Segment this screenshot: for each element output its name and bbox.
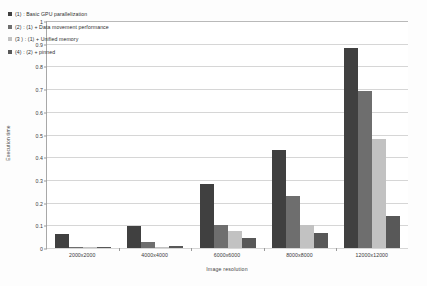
bar-series-3[interactable] — [228, 231, 242, 248]
y-tick-mark — [44, 249, 47, 250]
x-axis-title: Image resolution — [46, 266, 408, 272]
legend-item-1[interactable]: (1) : Basic GPU parallelization — [8, 11, 109, 17]
bar-series-2[interactable] — [358, 91, 372, 248]
bar-series-3[interactable] — [300, 225, 314, 248]
bar-series-1[interactable] — [344, 48, 358, 248]
y-tick-label: 0 — [40, 246, 43, 252]
gridline: 0 — [47, 248, 408, 249]
legend-item-2[interactable]: (2) : (1) + Data movement performance — [8, 24, 109, 30]
y-tick-label: 0.4 — [35, 155, 43, 161]
bar-series-1[interactable] — [55, 234, 69, 248]
y-tick-label: 0.1 — [35, 223, 43, 229]
bar-group — [119, 21, 191, 248]
legend-item-4[interactable]: (4) : (2) + pinned — [8, 49, 109, 55]
bar-group — [191, 21, 263, 248]
legend-swatch-icon — [8, 50, 12, 54]
y-tick-label: 0.8 — [35, 64, 43, 70]
bar-series-4[interactable] — [97, 247, 111, 248]
bar-series-1[interactable] — [200, 184, 214, 248]
x-tick-label: 12000x12000 — [336, 252, 408, 258]
bar-groups — [47, 21, 408, 248]
y-tick-label: 0.3 — [35, 178, 43, 184]
y-tick-label: 0.6 — [35, 110, 43, 116]
x-axis-tick-labels: 2000x20004000x40006000x60008000x80001200… — [46, 252, 408, 258]
x-tick-mark — [336, 248, 337, 251]
legend-label: (2) : (1) + Data movement performance — [15, 24, 109, 30]
bar-group — [336, 21, 408, 248]
bar-series-4[interactable] — [242, 238, 256, 248]
x-tick-label: 2000x2000 — [46, 252, 118, 258]
y-tick-label: 0.2 — [35, 201, 43, 207]
x-tick-mark — [119, 248, 120, 251]
bar-series-3[interactable] — [155, 247, 169, 248]
x-tick-label: 8000x8000 — [263, 252, 335, 258]
legend-swatch-icon — [8, 12, 12, 16]
bar-series-2[interactable] — [69, 247, 83, 248]
legend-label: (1) : Basic GPU parallelization — [15, 11, 87, 17]
bar-chart: Execution time 00.10.20.30.40.50.60.70.8… — [0, 0, 427, 286]
legend-swatch-icon — [8, 37, 12, 41]
bar-series-4[interactable] — [314, 233, 328, 248]
y-axis-title: Execution time — [5, 125, 11, 161]
bar-series-4[interactable] — [169, 246, 183, 248]
x-tick-mark — [264, 248, 265, 251]
bar-group — [47, 21, 119, 248]
y-tick-label: 0.5 — [35, 133, 43, 139]
bar-group — [264, 21, 336, 248]
bar-series-2[interactable] — [141, 242, 155, 248]
x-tick-label: 4000x4000 — [118, 252, 190, 258]
legend-label: (4) : (2) + pinned — [15, 49, 55, 55]
plot-area: 00.10.20.30.40.50.60.70.80.91 — [46, 21, 408, 249]
bar-series-4[interactable] — [386, 216, 400, 248]
y-tick-label: 0.7 — [35, 87, 43, 93]
x-tick-label: 6000x6000 — [191, 252, 263, 258]
bar-series-1[interactable] — [272, 150, 286, 248]
bar-series-2[interactable] — [286, 196, 300, 248]
bar-series-3[interactable] — [83, 247, 97, 248]
bar-series-1[interactable] — [127, 226, 141, 248]
bar-series-2[interactable] — [214, 225, 228, 248]
legend-label: (3 ) : (1) + Unified memory — [15, 36, 78, 42]
x-tick-mark — [191, 248, 192, 251]
legend-swatch-icon — [8, 25, 12, 29]
legend: (1) : Basic GPU parallelization(2) : (1)… — [8, 11, 109, 55]
bar-series-3[interactable] — [372, 139, 386, 248]
legend-item-3[interactable]: (3 ) : (1) + Unified memory — [8, 36, 109, 42]
